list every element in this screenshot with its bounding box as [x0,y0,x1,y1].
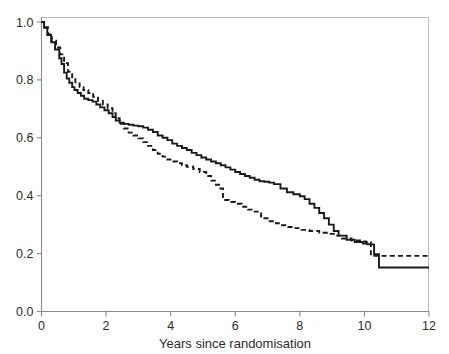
chart-canvas: 0.00.20.40.60.81.0 024681012 Years since… [0,0,449,354]
x-tick-label: 4 [167,319,174,333]
x-tick-group: 024681012 [38,312,436,333]
y-tick-label: 0.2 [16,247,33,261]
x-tick-label: 8 [296,319,303,333]
survival-chart: 0.00.20.40.60.81.0 024681012 Years since… [0,0,449,354]
y-tick-label: 1.0 [16,16,33,30]
x-axis-title: Years since randomisation [159,336,311,351]
x-tick-label: 0 [38,319,45,333]
x-tick-label: 12 [422,319,436,333]
x-tick-label: 10 [357,319,371,333]
y-tick-label: 0.8 [16,73,33,87]
y-tick-label: 0.0 [16,305,33,319]
y-tick-group: 0.00.20.40.60.81.0 [16,16,41,320]
y-tick-label: 0.6 [16,131,33,145]
series-group [42,22,430,268]
x-tick-label: 2 [103,319,110,333]
plot-frame [41,18,429,312]
y-tick-label: 0.4 [16,189,33,203]
series-solid-curve [42,22,430,268]
y-axis: 0.00.20.40.60.81.0 [16,16,41,320]
series-dashed-curve [42,22,430,256]
x-axis: 024681012 [38,312,436,333]
x-tick-label: 6 [232,319,239,333]
